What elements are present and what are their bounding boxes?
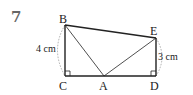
point-label-a: A	[99, 79, 108, 93]
problem-number: 7	[11, 10, 21, 25]
diagram-canvas: B C A D E 4 cm 3 cm	[0, 0, 193, 95]
bc-dimension-arc	[58, 25, 66, 76]
point-label-c: C	[59, 79, 67, 93]
point-label-d: D	[150, 79, 159, 93]
right-angle-marker-d	[151, 71, 156, 76]
measurement-bc: 4 cm	[36, 43, 56, 54]
point-label-b: B	[59, 12, 67, 26]
segment-ae	[104, 38, 156, 76]
point-label-e: E	[150, 24, 157, 38]
segment-ba	[65, 25, 104, 76]
right-angle-marker-c	[65, 71, 70, 76]
geometry-figure: 7 B C A D E 4 cm 3 cm	[0, 0, 193, 95]
segment-eb	[65, 25, 156, 38]
measurement-de: 3 cm	[158, 51, 178, 62]
